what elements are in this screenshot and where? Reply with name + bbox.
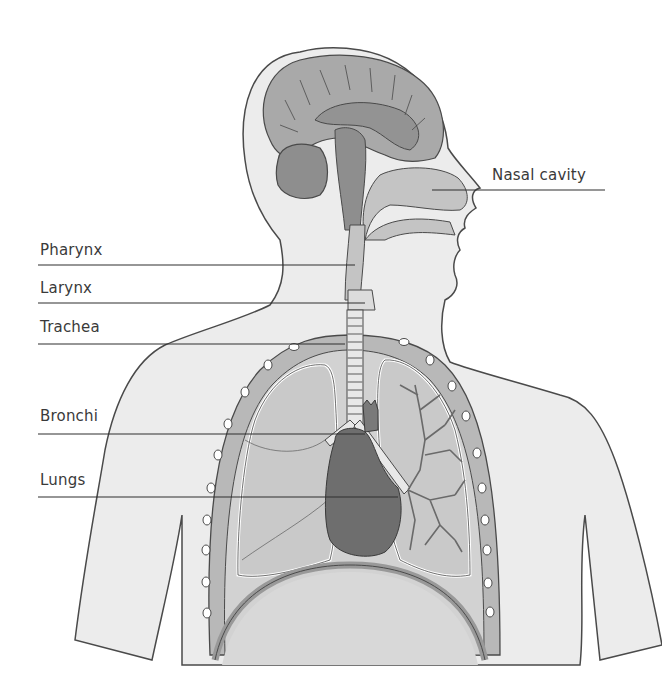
larynx-shape: [348, 290, 375, 310]
heart-aorta: [363, 400, 378, 432]
cerebellum: [276, 144, 327, 198]
label-nasal-cavity: Nasal cavity: [492, 168, 586, 183]
label-pharynx: Pharynx: [40, 243, 103, 258]
label-trachea: Trachea: [40, 320, 100, 335]
label-lungs: Lungs: [40, 473, 85, 488]
trachea-shape: [347, 310, 363, 425]
respiratory-system-diagram: [0, 0, 662, 691]
label-larynx: Larynx: [40, 281, 92, 296]
label-bronchi: Bronchi: [40, 409, 98, 424]
